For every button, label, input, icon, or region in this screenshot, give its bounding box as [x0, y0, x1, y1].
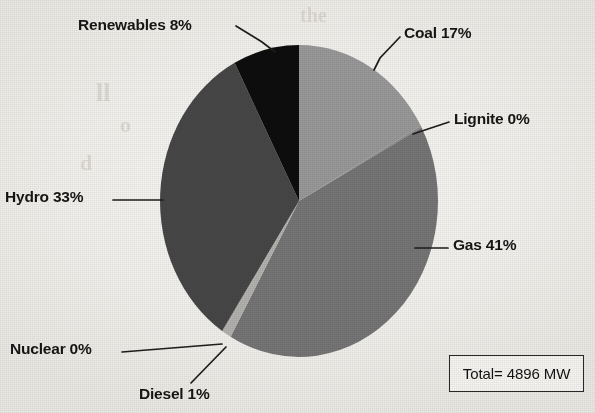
leader-line-renewables [236, 26, 275, 52]
slice-label-renewables: Renewables 8% [78, 16, 192, 34]
leader-line-coal [374, 37, 400, 70]
slice-label-diesel: Diesel 1% [139, 385, 210, 403]
slice-label-hydro: Hydro 33% [5, 188, 83, 206]
leader-line-diesel [191, 347, 226, 383]
leader-line-nuclear [122, 344, 222, 352]
slice-label-gas: Gas 41% [453, 236, 516, 254]
total-label: Total= 4896 MW [463, 365, 570, 382]
pie-slices [160, 45, 438, 357]
chart-page: the ll o ne d [0, 0, 595, 413]
slice-label-coal: Coal 17% [404, 24, 471, 42]
slice-label-nuclear: Nuclear 0% [10, 340, 92, 358]
total-box: Total= 4896 MW [449, 355, 584, 392]
slice-label-lignite: Lignite 0% [454, 110, 530, 128]
